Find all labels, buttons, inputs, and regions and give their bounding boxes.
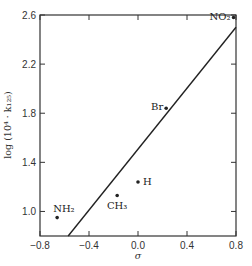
data-point xyxy=(136,180,140,184)
data-point xyxy=(115,194,119,198)
axis-ticks: −0.8−0.40.00.40.81.01.41.82.22.6 xyxy=(22,10,243,252)
y-tick-label: 1.0 xyxy=(22,206,36,217)
point-label: CH₃ xyxy=(107,200,127,211)
point-label: Br xyxy=(151,101,163,112)
data-point xyxy=(164,107,168,111)
y-axis-title: log (10⁴ · k₁₂₅) xyxy=(2,91,13,158)
x-tick-label: −0.8 xyxy=(30,240,50,251)
data-point xyxy=(55,216,59,220)
hammett-plot: −0.8−0.40.00.40.81.01.41.82.22.6 NO₂BrHC… xyxy=(0,0,252,266)
x-tick-label: −0.4 xyxy=(79,240,99,251)
y-tick-label: 1.4 xyxy=(22,157,36,168)
x-tick-label: 0.8 xyxy=(229,240,243,251)
x-tick-label: 0.4 xyxy=(180,240,194,251)
y-tick-label: 2.6 xyxy=(22,10,36,21)
y-tick-label: 2.2 xyxy=(22,59,36,70)
x-axis-title: σ xyxy=(135,250,142,261)
data-points: NO₂BrHCH₃NH₂ xyxy=(53,11,235,219)
y-tick-label: 1.8 xyxy=(22,108,36,119)
point-label: NH₂ xyxy=(53,203,74,214)
point-label: NO₂ xyxy=(210,11,231,22)
point-label: H xyxy=(143,176,152,187)
regression-line xyxy=(68,27,236,236)
data-point xyxy=(232,16,236,20)
